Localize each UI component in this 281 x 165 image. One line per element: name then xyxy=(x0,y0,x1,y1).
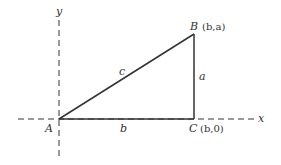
side-c-label: c xyxy=(119,65,125,78)
vertex-c-coords: (b,0) xyxy=(200,123,224,134)
vertex-b-coords: (b,a) xyxy=(202,21,225,32)
side-b-label: b xyxy=(120,122,127,135)
y-axis-label: y xyxy=(55,5,63,18)
vertex-c-label: C xyxy=(189,122,198,135)
x-axis-label: x xyxy=(258,112,265,125)
triangle-diagram: y x A B (b,a) C (b,0) c a b xyxy=(0,0,281,165)
vertex-a-label: A xyxy=(44,122,53,135)
vertex-b-label: B xyxy=(189,20,198,33)
side-c-hypotenuse xyxy=(59,34,194,119)
side-a-label: a xyxy=(199,70,206,83)
